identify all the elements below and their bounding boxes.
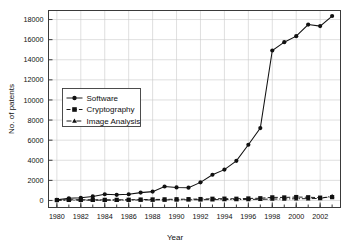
x-tick-label-1994: 1994 [216, 212, 232, 221]
x-tick-label-2002: 2002 [312, 212, 328, 221]
x-tick-label-2000: 2000 [288, 212, 304, 221]
y-tick-label-8000: 8000 [28, 116, 44, 125]
data-point-1984 [103, 192, 107, 196]
data-point-1990 [174, 185, 178, 189]
y-tick-label-2000: 2000 [28, 176, 44, 185]
y-tick-label-12000: 12000 [24, 75, 44, 84]
x-axis-ticks: 1980198219841986198819901992199419961998… [49, 203, 332, 221]
data-point-1999 [282, 40, 286, 44]
patents-line-chart: 0200040006000800010000120001400016000180… [0, 0, 350, 247]
data-point-2003 [330, 14, 334, 18]
data-point-1994 [222, 168, 226, 172]
x-tick-label-1982: 1982 [73, 212, 89, 221]
y-tick-label-6000: 6000 [28, 136, 44, 145]
data-point-1993 [210, 173, 214, 177]
y-tick-label-18000: 18000 [24, 15, 44, 24]
legend-label-cryptography: Cryptography [87, 105, 135, 114]
data-point-1998 [270, 48, 274, 52]
chart-legend: SoftwareCryptographyImage Analysis [63, 89, 141, 127]
series-line-triangle [57, 196, 332, 200]
legend-label-software: Software [87, 94, 119, 103]
legend-label-image-analysis: Image Analysis [87, 117, 141, 126]
y-tick-label-16000: 16000 [24, 35, 44, 44]
x-tick-label-1990: 1990 [169, 212, 185, 221]
x-tick-label-1986: 1986 [121, 212, 137, 221]
data-point-1997 [258, 126, 262, 130]
legend-marker-square [72, 107, 77, 112]
data-point-2001 [306, 22, 310, 26]
y-tick-label-14000: 14000 [24, 55, 44, 64]
y-tick-label-0: 0 [40, 196, 44, 205]
data-point-1988 [151, 190, 155, 194]
data-point-1995 [234, 159, 238, 163]
x-tick-label-1988: 1988 [145, 212, 161, 221]
series-image-analysis [55, 194, 335, 202]
x-tick-label-1998: 1998 [264, 212, 280, 221]
data-point-1985 [115, 193, 119, 197]
y-tick-label-10000: 10000 [24, 96, 44, 105]
x-tick-label-1992: 1992 [192, 212, 208, 221]
chart-canvas: 0200040006000800010000120001400016000180… [0, 0, 350, 247]
x-axis-title: Year [167, 233, 184, 242]
data-point-2000 [294, 34, 298, 38]
data-point-1992 [198, 180, 202, 184]
data-point-1989 [163, 184, 167, 188]
data-point-1986 [127, 192, 131, 196]
y-tick-label-4000: 4000 [28, 156, 44, 165]
data-point-2002 [318, 24, 322, 28]
x-tick-label-1996: 1996 [240, 212, 256, 221]
data-point-1987 [139, 191, 143, 195]
data-point-1991 [186, 186, 190, 190]
y-axis-title: No. of patents [7, 84, 16, 134]
x-tick-label-1980: 1980 [49, 212, 65, 221]
data-point-1996 [246, 143, 250, 147]
x-tick-label-1984: 1984 [97, 212, 113, 221]
legend-marker-circle [72, 96, 76, 100]
